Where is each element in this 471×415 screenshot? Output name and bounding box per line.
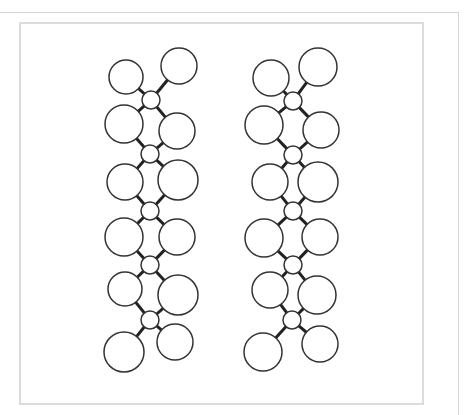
left-chain-junction-node	[141, 311, 159, 329]
right-chain-large-circle	[298, 162, 338, 202]
right-chain-junction-node	[284, 256, 302, 274]
left-chain-connector	[136, 326, 146, 338]
right-chain-large-circle	[252, 272, 288, 308]
left-chain-connector	[155, 270, 165, 281]
left-chain-large-circle	[157, 324, 193, 360]
left-chain-large-circle	[159, 113, 195, 149]
right-chain-large-circle	[245, 106, 283, 144]
right-chain-large-circle	[253, 60, 289, 96]
left-chain-connector	[156, 79, 169, 94]
left-chain-connector	[156, 106, 167, 119]
left-chain-junction-node	[141, 202, 159, 220]
left-chain-large-circle	[159, 219, 195, 255]
chain-diagram	[0, 0, 471, 415]
right-chain-connector	[276, 138, 288, 150]
left-chain-large-circle	[161, 48, 197, 84]
right-chain-connector	[275, 326, 287, 339]
left-chain-large-circle	[109, 60, 143, 94]
circles-layer	[104, 48, 339, 372]
right-chain-large-circle	[298, 276, 336, 314]
left-chain-large-circle	[105, 218, 143, 256]
right-chain-large-circle	[302, 326, 338, 362]
right-chain-junction-node	[284, 146, 302, 164]
left-chain-junction-node	[141, 145, 159, 163]
left-chain-large-circle	[104, 332, 144, 372]
right-chain-large-circle	[252, 164, 288, 200]
left-chain-connector	[155, 194, 166, 206]
right-chain-large-circle	[244, 333, 282, 371]
right-chain-junction-node	[283, 311, 301, 329]
right-chain-connector	[298, 106, 309, 118]
left-chain-large-circle	[105, 105, 143, 143]
left-chain-large-circle	[107, 164, 143, 200]
right-chain-large-circle	[299, 48, 337, 86]
right-chain-connector	[297, 81, 307, 95]
right-chain-large-circle	[245, 219, 283, 257]
right-chain-large-circle	[303, 112, 339, 148]
left-chain-connector	[135, 301, 146, 314]
left-chain-junction-node	[142, 91, 160, 109]
left-chain-large-circle	[108, 272, 142, 306]
right-chain-junction-node	[284, 92, 302, 110]
left-chain-junction-node	[141, 256, 159, 274]
left-chain-large-circle	[158, 275, 198, 315]
left-chain-large-circle	[158, 160, 198, 200]
right-chain-large-circle	[302, 219, 338, 255]
right-chain-junction-node	[284, 202, 302, 220]
